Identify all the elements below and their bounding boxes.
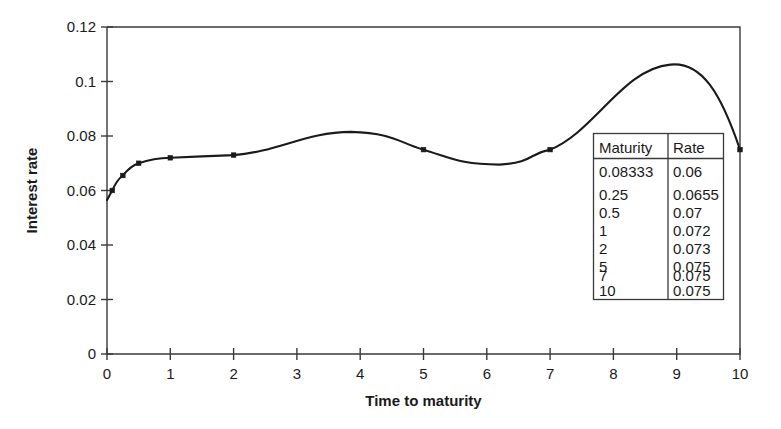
- table-cell-rate: 0.06: [673, 163, 702, 180]
- data-point-marker: [121, 173, 126, 178]
- chart-page: 0.12 0.1 0.08 0.06 0.04 0.02 0 0 1 2: [0, 0, 781, 429]
- table-cell-maturity: 0.08333: [599, 163, 653, 180]
- x-axis-title: Time to maturity: [365, 392, 482, 409]
- table-cell-rate: 0.073: [673, 240, 711, 257]
- data-point-marker: [421, 147, 426, 152]
- table-cell-maturity: 1: [599, 222, 607, 239]
- table-header-row: Maturity Rate: [599, 139, 705, 156]
- data-point-marker: [136, 161, 141, 166]
- x-tick-label: 7: [546, 365, 554, 382]
- x-tick-label: 6: [483, 365, 491, 382]
- table-header-cell: Rate: [673, 139, 705, 156]
- x-tick-label: 1: [166, 365, 174, 382]
- table-cell-rate: 0.07: [673, 204, 702, 221]
- table-cell-maturity: 10: [599, 282, 616, 299]
- y-axis-tick-labels: 0.12 0.1 0.08 0.06 0.04 0.02 0: [67, 18, 96, 362]
- table-cell-rate: 0.075: [673, 282, 711, 299]
- x-tick-label: 2: [229, 365, 237, 382]
- y-tick-label: 0.02: [67, 291, 96, 308]
- x-tick-label: 10: [732, 365, 749, 382]
- x-tick-label: 8: [609, 365, 617, 382]
- table-cell-rate: 0.072: [673, 222, 711, 239]
- yield-curve-chart: 0.12 0.1 0.08 0.06 0.04 0.02 0 0 1 2: [0, 0, 781, 429]
- data-point-marker: [168, 156, 173, 161]
- x-tick-label: 4: [356, 365, 364, 382]
- data-point-marker: [738, 147, 743, 152]
- table-cell-maturity: 2: [599, 240, 607, 257]
- y-tick-label: 0.12: [67, 18, 96, 35]
- data-point-marker: [231, 153, 236, 158]
- y-tick-label: 0: [88, 345, 96, 362]
- table-row: 0.08333 0.06: [599, 163, 702, 180]
- x-axis-tick-labels: 0 1 2 3 4 5 6 7 8 9 10: [103, 365, 749, 382]
- x-tick-label: 0: [103, 365, 111, 382]
- x-tick-label: 5: [419, 365, 427, 382]
- y-tick-label: 0.04: [67, 236, 96, 253]
- y-tick-label: 0.08: [67, 127, 96, 144]
- y-tick-label: 0.06: [67, 182, 96, 199]
- data-table: Maturity Rate 0.08333 0.06 0.25 0.0655 0…: [594, 134, 724, 300]
- data-point-marker: [548, 147, 553, 152]
- x-tick-label: 9: [673, 365, 681, 382]
- x-tick-label: 3: [293, 365, 301, 382]
- data-point-marker: [110, 188, 115, 193]
- table-cell-rate: 0.0655: [673, 186, 719, 203]
- table-cell-maturity: 0.5: [599, 204, 620, 221]
- table-header-cell: Maturity: [599, 139, 653, 156]
- y-tick-label: 0.1: [75, 73, 96, 90]
- table-cell-maturity: 0.25: [599, 186, 628, 203]
- y-axis-title: Interest rate: [23, 148, 40, 234]
